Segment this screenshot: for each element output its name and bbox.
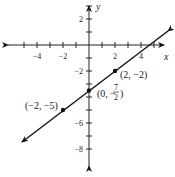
x-tick-label: 2 bbox=[113, 52, 117, 61]
point-0-neg3.5 bbox=[87, 88, 91, 92]
point-2-neg2 bbox=[113, 69, 117, 73]
point-label-fraction: (0, − 7 2 ) bbox=[97, 83, 123, 102]
x-tick-label: −2 bbox=[59, 52, 68, 61]
point-neg2-neg5 bbox=[61, 108, 65, 112]
svg-text:): ) bbox=[120, 88, 123, 100]
y-axis-label: y bbox=[95, 1, 101, 12]
coordinate-plane: −4 −2 2 4 2 −2 −6 −8 x y (2, −2) (−2, −5… bbox=[0, 0, 175, 177]
y-tick-label: −8 bbox=[74, 145, 83, 154]
x-tick-label: −4 bbox=[33, 52, 42, 61]
x-axis-label: x bbox=[163, 51, 169, 62]
y-tick-label: −2 bbox=[74, 67, 83, 76]
svg-text:2: 2 bbox=[114, 93, 118, 102]
y-tick-label: 2 bbox=[79, 15, 83, 24]
point-label: (−2, −5) bbox=[25, 100, 58, 112]
graph-line bbox=[22, 31, 168, 142]
svg-text:7: 7 bbox=[114, 83, 118, 92]
point-label: (2, −2) bbox=[120, 69, 147, 81]
y-tick-label: −6 bbox=[74, 119, 83, 128]
